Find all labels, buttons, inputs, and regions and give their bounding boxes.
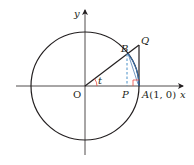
point-P-label: P xyxy=(121,89,129,100)
point-Q-label: Q xyxy=(141,35,149,46)
right-angle-mark xyxy=(133,80,139,86)
point-A-label: A(1, 0) xyxy=(141,89,176,100)
y-axis-label: y xyxy=(73,8,80,19)
x-axis-label: x xyxy=(180,89,186,100)
point-A-coords: (1, 0) xyxy=(149,89,176,100)
point-B-label: B xyxy=(120,43,128,54)
origin-label: O xyxy=(73,89,81,100)
point-A-letter: A xyxy=(141,89,149,100)
angle-mark-t xyxy=(95,79,97,86)
unit-circle-diagram: y x O t B Q P A(1, 0) xyxy=(0,0,194,165)
ray-OQ xyxy=(85,45,139,86)
angle-label: t xyxy=(98,75,103,86)
